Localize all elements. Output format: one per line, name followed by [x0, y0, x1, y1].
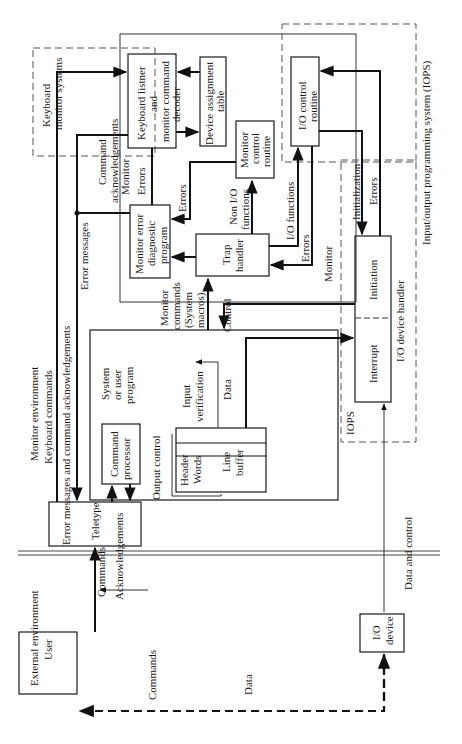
keyboard-listener-label-2: and [147, 96, 159, 112]
monitor-commands-label-2: commands [170, 282, 182, 330]
keyboard-monitor-label-2: monitor systems [52, 58, 64, 130]
monitor-label: Monitor [119, 159, 131, 195]
error-ack-label: Error messages and command acknowledgeme… [60, 326, 72, 545]
keyboard-listener-label-1: Keyboard listner [135, 66, 147, 140]
errors-label-4: Errors [367, 178, 379, 206]
line-buffer-label-1: Line [220, 452, 232, 472]
errors-label-2: Errors [176, 185, 188, 213]
error-diag-label-3: program [157, 226, 169, 264]
error-diag-label-2: diagnostic [145, 221, 157, 266]
control-label: Control [221, 298, 233, 332]
non-io-label-2: functions [239, 189, 251, 230]
io-device-box [360, 614, 404, 652]
trap-handler-label-2: handler [233, 239, 245, 272]
error-messages-label: Error messages [78, 222, 90, 290]
header-label: Header [178, 454, 190, 486]
output-control-label: Output control [150, 436, 162, 500]
keyboard-monitor-label-1: Keyboard [40, 83, 52, 127]
user-label: User [42, 639, 54, 660]
monitor-commands-label-4: macros) [194, 292, 207, 328]
error-diag-label-1: Monitor error [133, 213, 145, 274]
keyboard-commands-label: Keyboard commands [42, 370, 54, 464]
device-table-label-2: table [214, 91, 226, 112]
monitor-control-label-3: routine [260, 136, 272, 167]
commands-user-label: Commands [146, 650, 158, 700]
system-program-label-3: program [123, 366, 135, 404]
data-user-label: Data [242, 674, 254, 695]
io-functions-label: I/O functions [284, 182, 296, 240]
monitor-env-label: Monitor environment [28, 367, 40, 461]
errors-label-1: Errors [135, 168, 147, 196]
command-processor-label-2: processor [120, 438, 132, 480]
io-device-label-2: device [383, 616, 395, 645]
system-program-label-1: System [99, 367, 111, 400]
system-program-label-2: or user [111, 369, 123, 400]
io-system-diagram: External environment Monitor environment… [0, 0, 462, 744]
iops-short-label: IOPS [344, 411, 356, 435]
environment-divider [18, 551, 440, 555]
initiation-label: Initiation [367, 259, 379, 300]
monitor-label-2: Monitor [322, 246, 334, 282]
command-processor-label-1: Command [108, 431, 120, 477]
words-label: Words [191, 456, 203, 484]
errors-label-3: Errors [299, 235, 311, 263]
acknowledgements-label: Acknowledgements [113, 513, 125, 600]
interrupt-label: Interrupt [367, 345, 379, 383]
io-device-label-1: I/O [370, 625, 382, 640]
initialization-label: Initialization [350, 163, 362, 220]
monitor-commands-label-1: Monitor [158, 290, 170, 326]
teletype-label: Teletype [89, 502, 101, 540]
io-device-handler-label: I/O device handler [394, 280, 406, 362]
input-verification-label-1: Input [180, 385, 192, 408]
command-ack-label-1: Command [96, 139, 108, 185]
io-control-label-2: routine [307, 91, 319, 122]
trap-handler-label-1: Trap [220, 244, 232, 265]
data-label: Data [221, 379, 233, 400]
line-buffer-label-2: buffer [233, 449, 245, 476]
non-io-label-1: Non I/O [227, 189, 239, 225]
keyboard-listener-label-4: decoder [170, 87, 182, 122]
data-control-label: Data and control [402, 517, 414, 590]
iops-region-label: Input/output programming system (IOPS) [420, 60, 433, 245]
external-env-label: External environment [28, 590, 40, 686]
input-verification-label-2: verification [193, 371, 205, 422]
commands-label: Commands [95, 547, 107, 597]
